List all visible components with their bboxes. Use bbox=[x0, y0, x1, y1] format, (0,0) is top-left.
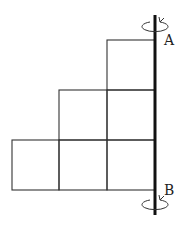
square-bottom-2 bbox=[59, 140, 107, 190]
square-bottom-3 bbox=[107, 140, 155, 190]
label-a: A bbox=[163, 32, 175, 48]
square-top bbox=[107, 40, 155, 90]
rotation-diagram: A B bbox=[0, 0, 189, 226]
square-bottom-1 bbox=[12, 140, 59, 190]
square-mid-2 bbox=[107, 90, 155, 140]
squares bbox=[12, 40, 155, 190]
square-mid-1 bbox=[59, 90, 107, 140]
label-b: B bbox=[164, 182, 174, 198]
